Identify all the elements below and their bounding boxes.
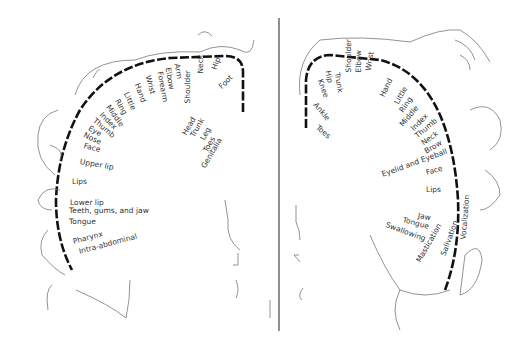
sensory-label: Lips — [72, 177, 87, 186]
homunculus-drawing — [0, 0, 512, 351]
sensory-label: Neck — [196, 55, 205, 74]
motor-label: Lips — [426, 185, 441, 194]
sensory-label: Shoulder — [183, 70, 192, 103]
sensory-label: Teeth, gums, and jaw — [69, 206, 149, 215]
sensory-body-sketch — [38, 32, 254, 318]
motor-label: Shoulder — [344, 39, 353, 72]
motor-label: Elbow — [354, 50, 363, 72]
sensory-label: Tongue — [69, 217, 96, 226]
motor-body-sketch — [270, 30, 501, 330]
